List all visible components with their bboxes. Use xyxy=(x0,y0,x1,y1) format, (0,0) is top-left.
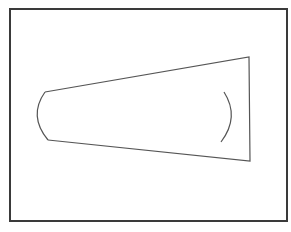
left-arc xyxy=(37,92,48,140)
tapered-lens-diagram xyxy=(0,0,291,232)
trapezoid-outline xyxy=(45,57,250,161)
right-arc xyxy=(221,92,231,142)
